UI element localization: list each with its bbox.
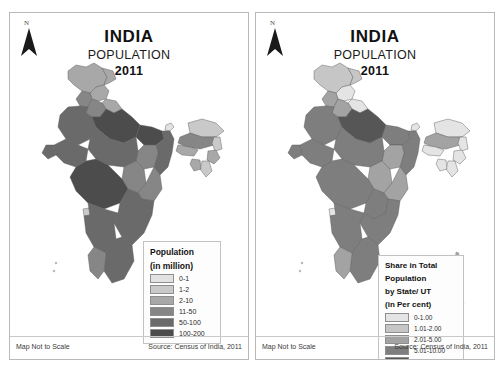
map-sheet: N INDIA POPULATION 2011 xyxy=(0,0,503,374)
legend-title-line-1: Share in Total xyxy=(385,261,457,271)
source-note: Source: Census of India, 2011 xyxy=(394,343,488,350)
legend-title-line-2: (in million) xyxy=(150,261,214,272)
scale-note: Map Not to Scale xyxy=(16,343,70,350)
legend-row: 0-1 xyxy=(150,274,214,283)
legend-title-line-1: Population xyxy=(150,247,214,258)
legend-swatch xyxy=(150,285,174,294)
lakshadweep-islands xyxy=(53,262,57,272)
legend-row: 0-1.00 xyxy=(385,313,457,322)
legend-swatch xyxy=(150,274,174,283)
legend-label: 0-1 xyxy=(179,274,189,283)
legend-label: 2-10 xyxy=(179,296,193,305)
map-panel-share: N INDIA POPULATION 2011 xyxy=(255,12,495,360)
legend-population: Population (in million) 0-1 1-2 2-10 11-… xyxy=(143,241,221,344)
legend-row: 2-10 xyxy=(150,296,214,305)
legend-title-line-3: by State/ UT xyxy=(385,287,457,297)
legend-label: 0-1.00 xyxy=(414,313,432,322)
legend-row: 50-100 xyxy=(150,318,214,327)
lakshadweep-islands xyxy=(299,262,303,272)
legend-row: 1.01-2.00 xyxy=(385,324,457,333)
legend-swatch xyxy=(150,307,174,316)
legend-swatch xyxy=(150,296,174,305)
legend-label: 11-50 xyxy=(179,307,196,316)
scale-note: Map Not to Scale xyxy=(262,343,316,350)
map-footer: Map Not to Scale Source: Census of India… xyxy=(10,336,248,359)
legend-label: 1-2 xyxy=(179,285,189,294)
source-note: Source: Census of India, 2011 xyxy=(148,343,242,350)
legend-swatch xyxy=(150,318,174,327)
legend-label: 1.01-2.00 xyxy=(414,324,441,333)
legend-title-line-4: (in Per cent) xyxy=(385,300,457,310)
legend-row: 11-50 xyxy=(150,307,214,316)
legend-swatch xyxy=(385,313,409,322)
legend-title-line-2: Population xyxy=(385,274,457,284)
map-footer: Map Not to Scale Source: Census of India… xyxy=(256,336,494,359)
legend-label: 50-100 xyxy=(179,318,201,327)
legend-row: 1-2 xyxy=(150,285,214,294)
legend-swatch xyxy=(385,324,409,333)
map-panel-population: N INDIA POPULATION 2011 xyxy=(9,12,249,360)
